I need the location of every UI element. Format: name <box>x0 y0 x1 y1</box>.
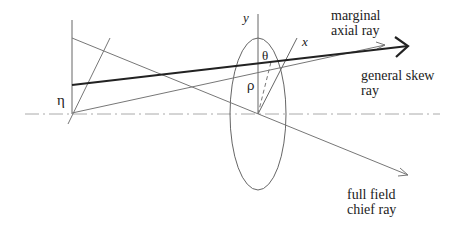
label-full-field-chief-ray: full field chief ray <box>347 187 396 217</box>
eta-symbol: η <box>57 92 65 109</box>
chief-ray <box>72 38 408 175</box>
label-general-skew-ray: general skew ray <box>361 68 434 98</box>
label-marginal-axial-ray: marginal axial ray <box>331 8 381 38</box>
rho-symbol: ρ <box>247 78 254 93</box>
optics-diagram: marginal axial ray general skew ray full… <box>0 0 451 226</box>
y-axis-label: y <box>243 10 249 26</box>
skew-ray <box>72 46 408 85</box>
theta-symbol: θ <box>262 48 268 64</box>
x-axis-label: x <box>302 34 308 50</box>
